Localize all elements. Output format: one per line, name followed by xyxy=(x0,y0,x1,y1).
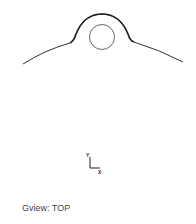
part-boss-edge xyxy=(70,14,134,43)
axis-triad-icon xyxy=(90,157,100,168)
y-axis-label: Y xyxy=(86,153,89,158)
part-outline-drawing xyxy=(0,0,196,224)
graphics-viewport[interactable]: Y X Gview: TOP xyxy=(0,0,196,224)
hole-circle xyxy=(90,25,115,50)
part-profile-outline xyxy=(23,14,183,64)
view-name-label: Gview: TOP xyxy=(22,203,70,213)
x-axis-label: X xyxy=(98,170,101,175)
